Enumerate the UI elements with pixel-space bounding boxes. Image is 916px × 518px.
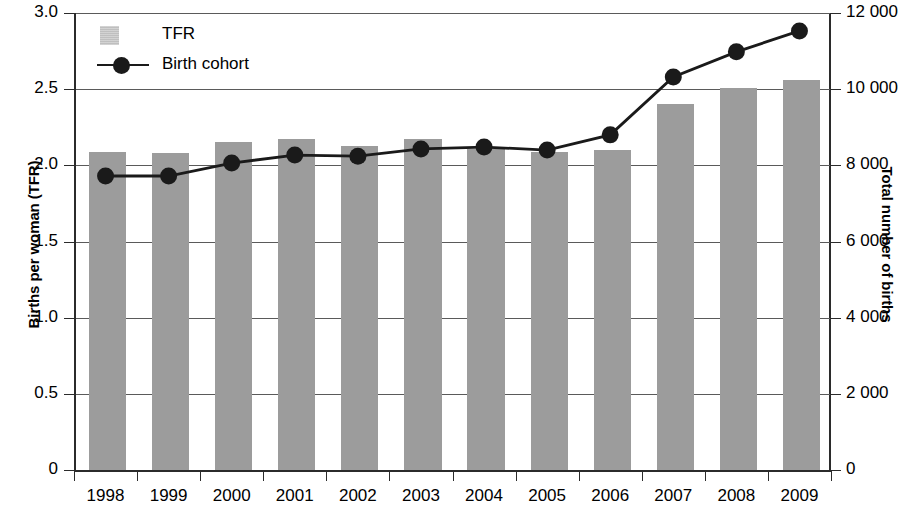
legend-swatch-icon [100, 26, 119, 45]
data-point-marker [665, 68, 682, 85]
data-point-marker [223, 155, 240, 172]
data-point-marker [602, 126, 619, 143]
line-path [106, 31, 800, 176]
data-point-marker [412, 140, 429, 157]
data-point-marker [791, 22, 808, 39]
data-point-marker [160, 167, 177, 184]
data-point-marker [728, 43, 745, 60]
data-point-marker [476, 139, 493, 156]
legend-label-tfr: TFR [162, 24, 195, 44]
line-series-birth-cohort [0, 0, 916, 518]
data-point-marker [286, 147, 303, 164]
chart-figure: Births per woman (TFR) Total number of b… [0, 0, 916, 518]
data-point-marker [349, 148, 366, 165]
data-point-marker [539, 142, 556, 159]
legend-marker-dot-icon [113, 57, 130, 74]
legend-label-birth-cohort: Birth cohort [162, 54, 249, 74]
data-point-marker [97, 167, 114, 184]
